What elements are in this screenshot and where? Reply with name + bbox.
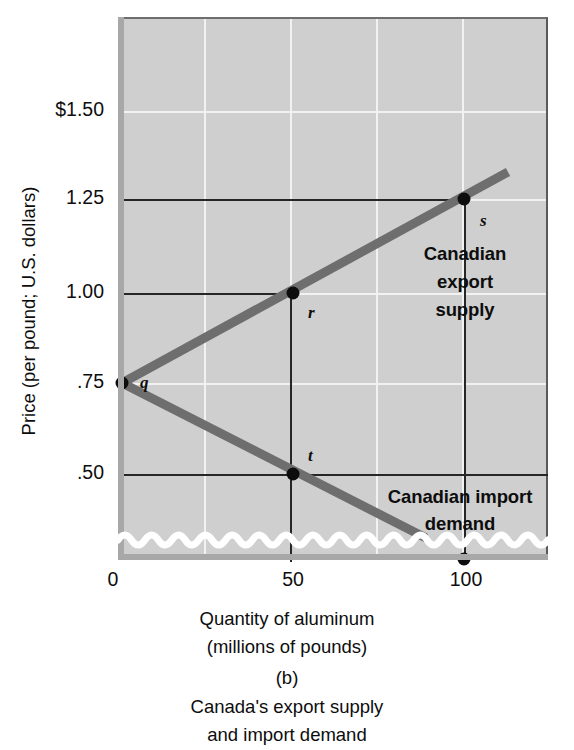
- figure-title-line2: and import demand: [0, 724, 574, 746]
- figure-panel-b: q r s t Canadian export supply Canadian …: [0, 0, 574, 750]
- point-label-t: t: [308, 446, 313, 466]
- x-axis-title-line1: Quantity of aluminum: [0, 608, 574, 630]
- export-supply-label-line2: export: [365, 269, 565, 294]
- figure-title-line1: Canada's export supply: [0, 696, 574, 718]
- y-tick-label-075: .75: [77, 370, 104, 393]
- import-demand-label-line1: Canadian import: [355, 484, 565, 509]
- y-tick-label-100: 1.00: [66, 280, 104, 303]
- data-point-t: [287, 468, 300, 481]
- x-tick-label-100: 100: [450, 568, 483, 591]
- y-tick-label-150: $1.50: [55, 98, 104, 121]
- export-supply-label-line1: Canadian: [365, 241, 565, 266]
- point-label-s: s: [480, 211, 487, 231]
- x-tick-label-0: 0: [108, 568, 119, 591]
- point-label-q: q: [140, 373, 149, 393]
- point-label-r: r: [308, 303, 315, 323]
- export-supply-label-line3: supply: [365, 297, 565, 322]
- y-tick-label-050: .50: [77, 461, 104, 484]
- panel-label: (b): [0, 667, 574, 689]
- x-axis-title-line2: (millions of pounds): [0, 636, 574, 658]
- x-axis-spine: [118, 554, 548, 560]
- y-axis-title: Price (per pound; U.S. dollars): [18, 146, 40, 476]
- axis-break-wave: [118, 524, 548, 550]
- data-point-s: [458, 193, 471, 206]
- x-tick-label-50: 50: [282, 568, 304, 591]
- y-tick-label-125: 1.25: [66, 186, 104, 209]
- y-axis-spine: [118, 17, 124, 560]
- plot-area: q r s t Canadian export supply Canadian …: [118, 17, 548, 560]
- data-point-r: [287, 287, 300, 300]
